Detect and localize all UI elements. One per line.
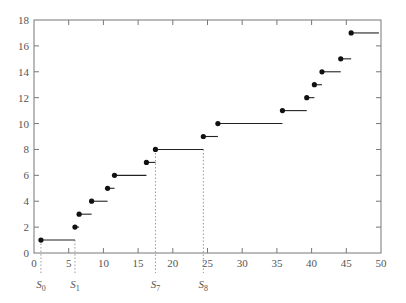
y-tick-label: 14 [18, 66, 30, 78]
step-dot [77, 212, 82, 217]
step-chart: 05101520253035404550 024681012141618 S0S… [0, 0, 406, 303]
x-tick-label: 0 [31, 257, 37, 269]
step-dot [105, 186, 110, 191]
y-tick-label: 10 [18, 118, 30, 130]
x-tick-label: 40 [306, 257, 318, 269]
y-tick-label: 0 [24, 247, 30, 259]
y-tick-label: 2 [24, 221, 30, 233]
step-dot [153, 147, 158, 152]
step-dot [349, 30, 354, 35]
x-tick-label: 10 [98, 257, 110, 269]
x-tick-label: 30 [237, 257, 249, 269]
x-tick-label: 45 [341, 257, 353, 269]
x-tick-label: 35 [271, 257, 283, 269]
s-label: S1 [70, 278, 80, 293]
step-dot [280, 108, 285, 113]
y-tick-label: 4 [24, 195, 30, 207]
y-tick-label: 16 [18, 40, 30, 52]
y-tick-label: 6 [24, 169, 30, 181]
y-tick-label: 18 [18, 14, 30, 26]
step-dot [215, 121, 220, 126]
x-tick-label: 20 [167, 257, 179, 269]
y-tick-label: 12 [18, 92, 29, 104]
step-dot [112, 173, 117, 178]
step-series [38, 30, 379, 242]
s-label: S0 [36, 278, 46, 293]
step-dot [304, 95, 309, 100]
step-dot [72, 225, 77, 230]
y-axis: 024681012141618 [18, 14, 381, 259]
step-dot [338, 56, 343, 61]
x-tick-label: 5 [66, 257, 72, 269]
step-dot [201, 134, 206, 139]
step-dot [144, 160, 149, 165]
s-annotations: S0S1S7S8 [36, 278, 208, 293]
step-dot [319, 69, 324, 74]
s-label: S8 [199, 278, 209, 293]
x-axis: 05101520253035404550 [31, 20, 387, 269]
s-label: S7 [151, 278, 161, 293]
y-tick-label: 8 [24, 143, 30, 155]
step-dot [38, 237, 43, 242]
dotted-guides [41, 149, 203, 273]
x-tick-label: 15 [133, 257, 145, 269]
step-dot [312, 82, 317, 87]
x-tick-label: 50 [376, 257, 388, 269]
step-dot [89, 199, 94, 204]
